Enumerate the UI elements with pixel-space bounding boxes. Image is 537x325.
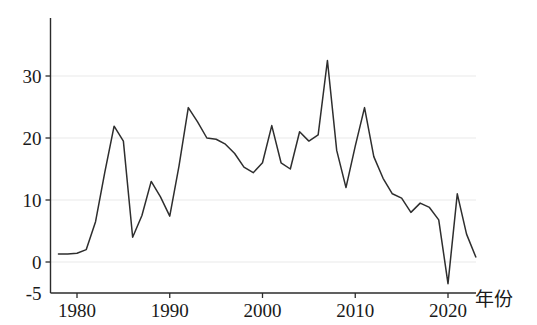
x-axis-title: 年份 (475, 289, 513, 310)
y-tick-label-0: 0 (32, 252, 42, 273)
x-tick-label-2020: 2020 (429, 300, 467, 321)
axes-group (51, 18, 477, 293)
chart-canvas: -50102030 19801990200020102020 年份 (0, 0, 537, 325)
y-tick-label-30: 30 (23, 66, 42, 87)
x-tick-label-2000: 2000 (244, 300, 282, 321)
y-tick-label-10: 10 (23, 190, 42, 211)
y-axis-ticks: -50102030 (23, 66, 51, 304)
x-tick-label-1980: 1980 (58, 300, 96, 321)
y-tick-label-20: 20 (23, 128, 42, 149)
series-line-annual-value (58, 61, 475, 284)
x-axis-ticks: 19801990200020102020 (58, 293, 467, 321)
x-tick-label-2010: 2010 (336, 300, 374, 321)
x-tick-label-1990: 1990 (151, 300, 189, 321)
y-tick-label--5: -5 (26, 283, 42, 304)
gridlines-group (51, 76, 477, 262)
data-series-group (58, 61, 475, 284)
line-chart: -50102030 19801990200020102020 年份 (0, 0, 537, 325)
